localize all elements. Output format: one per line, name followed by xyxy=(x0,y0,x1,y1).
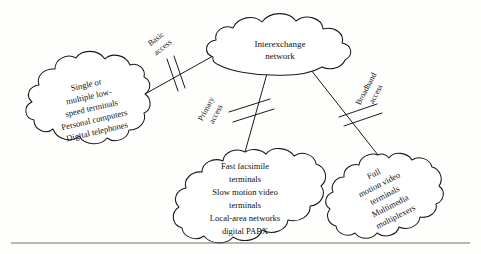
basic-access-label: Basic access xyxy=(145,29,173,57)
fast-facsimile-text-line-6: digital PABX xyxy=(222,226,269,236)
fast-facsimile-text-line-4: terminals xyxy=(229,200,262,210)
link-basic-access xyxy=(145,56,213,94)
primary-access-label: Primary access xyxy=(196,95,226,127)
interexchange-text-line-1: Interexchange xyxy=(255,39,306,49)
link-primary-access xyxy=(245,70,268,152)
break-mark-broadband xyxy=(339,104,382,126)
fast-facsimile-text-line-3: Slow motion video xyxy=(212,187,277,197)
interexchange-text-line-2: network xyxy=(265,51,295,61)
break-mark-primary xyxy=(229,99,274,122)
fast-facsimile-text-line-5: Local-area networks xyxy=(210,213,281,223)
figure-container: Interexchange network Single or multiple… xyxy=(0,0,481,254)
fast-facsimile-text-line-1: Fast facsimile xyxy=(221,161,269,171)
fast-facsimile-text-line-2: terminals xyxy=(229,174,262,184)
